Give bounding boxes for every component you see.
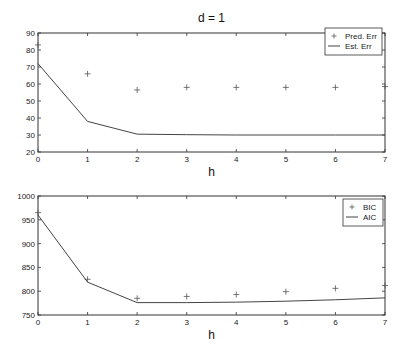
x-tick-label: 3 (184, 318, 189, 327)
y-tick-label: 20 (26, 148, 35, 157)
plus-marker (184, 293, 190, 299)
x-tick-label: 2 (135, 318, 140, 327)
x-tick-label: 2 (135, 155, 140, 164)
subplot-2: 012345677508008509009501000hBICAIC (17, 192, 388, 342)
legend-label: BIC (363, 203, 377, 212)
plus-marker (332, 285, 338, 291)
plus-marker (233, 84, 239, 90)
plus-marker (283, 84, 289, 90)
legend: BICAIC (343, 199, 383, 226)
legend-label: AIC (363, 213, 377, 222)
plus-marker (332, 84, 338, 90)
y-tick-label: 90 (26, 29, 35, 38)
plus-marker (233, 292, 239, 298)
y-tick-label: 750 (22, 311, 36, 320)
plus-marker (382, 282, 388, 288)
x-tick-label: 6 (333, 318, 338, 327)
plus-marker (35, 210, 41, 216)
plus-marker (134, 87, 140, 93)
x-tick-label: 4 (234, 318, 239, 327)
x-tick-label: 0 (36, 318, 41, 327)
y-tick-label: 30 (26, 131, 35, 140)
x-tick-label: 1 (85, 155, 90, 164)
y-tick-label: 60 (26, 80, 35, 89)
plot-frame (38, 196, 385, 315)
x-tick-label: 1 (85, 318, 90, 327)
plus-marker (184, 84, 190, 90)
series-line-aic (38, 215, 385, 303)
x-tick-label: 0 (36, 155, 41, 164)
y-tick-label: 1000 (17, 192, 35, 201)
x-tick-label: 3 (184, 155, 189, 164)
x-tick-label: 7 (383, 155, 388, 164)
plus-marker (134, 295, 140, 301)
figure: 012345672030405060708090d = 1hPred. ErrE… (0, 0, 405, 349)
legend: Pred. ErrEst. Err (325, 28, 382, 55)
y-tick-label: 80 (26, 46, 35, 55)
y-tick-label: 900 (22, 240, 36, 249)
chart-title: d = 1 (198, 11, 225, 25)
y-tick-label: 40 (26, 114, 35, 123)
x-axis-label: h (208, 328, 215, 342)
x-tick-label: 7 (383, 318, 388, 327)
y-tick-label: 800 (22, 287, 36, 296)
y-tick-label: 50 (26, 97, 35, 106)
x-tick-label: 5 (284, 155, 289, 164)
plus-marker (35, 42, 41, 48)
y-tick-label: 850 (22, 263, 36, 272)
plus-marker (85, 71, 91, 77)
x-tick-label: 6 (333, 155, 338, 164)
y-tick-label: 950 (22, 216, 36, 225)
x-axis-label: h (208, 165, 215, 179)
series-line-est-err (38, 64, 385, 135)
plus-marker (283, 289, 289, 295)
legend-label: Pred. Err (345, 32, 377, 41)
subplot-1: 012345672030405060708090d = 1hPred. ErrE… (26, 11, 388, 179)
y-tick-label: 70 (26, 63, 35, 72)
x-tick-label: 4 (234, 155, 239, 164)
chart-canvas: 012345672030405060708090d = 1hPred. ErrE… (0, 0, 405, 349)
plus-marker (382, 84, 388, 90)
legend-label: Est. Err (345, 42, 372, 51)
x-tick-label: 5 (284, 318, 289, 327)
